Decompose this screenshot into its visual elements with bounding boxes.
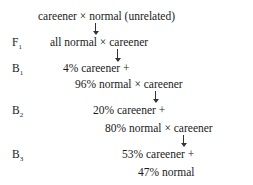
arrow-down-icon [183, 135, 184, 146]
b1-result-line1: 4% careener + [63, 62, 130, 75]
f1-result: all normal × careener [50, 36, 148, 49]
b2-result-line2: 80% normal × careener [105, 122, 213, 135]
arrow-down-icon [117, 49, 118, 61]
generation-label-f1: F1 [12, 36, 22, 54]
generation-label-b2: B2 [12, 104, 23, 122]
arrow-down-icon [155, 91, 156, 102]
b2-result-line1: 20% careener + [93, 104, 165, 117]
parental-cross: careener × normal (unrelated) [38, 10, 175, 23]
b3-result-line1: 53% careener + [122, 148, 194, 161]
b1-result-line2: 96% normal × careener [75, 78, 183, 91]
b3-result-line2: 47% normal [138, 166, 195, 179]
generation-label-b1: B1 [12, 62, 23, 80]
arrow-down-icon [95, 23, 96, 34]
generation-label-b3: B3 [12, 148, 23, 166]
